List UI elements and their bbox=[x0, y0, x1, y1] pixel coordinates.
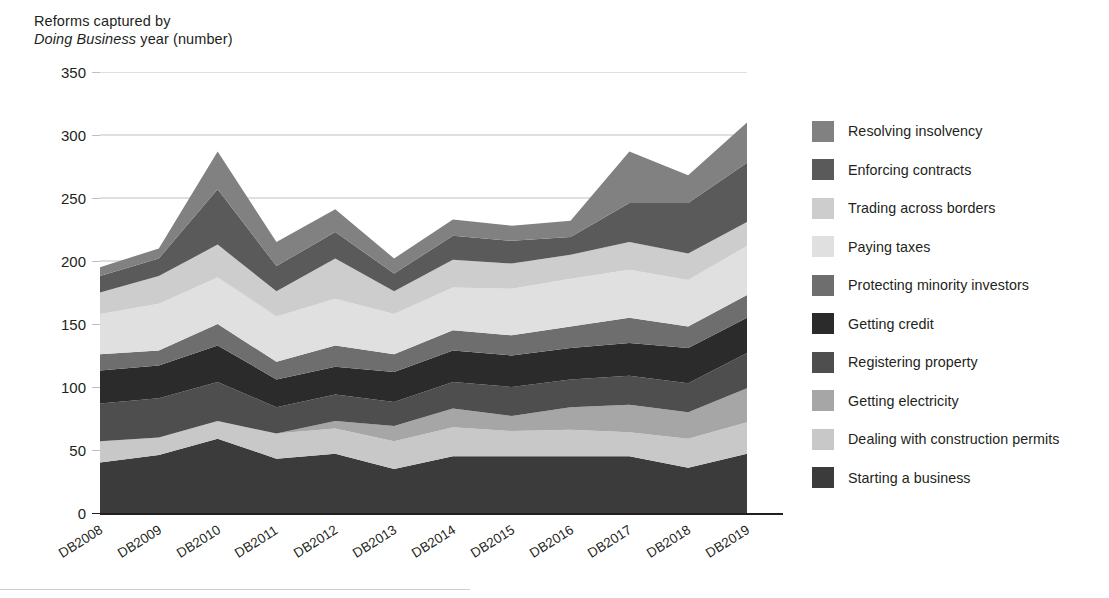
y-axis-title-line2-rest: year (number) bbox=[136, 31, 233, 47]
legend-swatch-icon bbox=[812, 159, 834, 180]
y-tick-mark bbox=[92, 450, 100, 451]
legend-swatch-icon bbox=[812, 352, 834, 373]
legend-item-label: Getting electricity bbox=[848, 393, 959, 409]
x-tick-label-db2015: DB2015 bbox=[468, 522, 517, 561]
legend-item[interactable]: Enforcing contracts bbox=[812, 151, 1107, 190]
x-tick-label-db2014: DB2014 bbox=[409, 522, 458, 561]
legend-swatch-icon bbox=[812, 275, 834, 296]
legend-item-label: Registering property bbox=[848, 354, 978, 370]
y-tick-mark bbox=[92, 72, 100, 73]
y-tick-mark bbox=[92, 513, 100, 514]
x-tick-label-db2010: DB2010 bbox=[174, 522, 223, 561]
legend-item-label: Enforcing contracts bbox=[848, 162, 971, 178]
y-tick-mark bbox=[92, 261, 100, 262]
legend-item[interactable]: Protecting minority investors bbox=[812, 266, 1107, 305]
legend-item[interactable]: Registering property bbox=[812, 343, 1107, 382]
legend-swatch-icon bbox=[812, 467, 834, 488]
legend-swatch-icon bbox=[812, 390, 834, 411]
legend-item-label: Trading across borders bbox=[848, 200, 996, 216]
area-series-group bbox=[100, 122, 747, 513]
legend-item[interactable]: Paying taxes bbox=[812, 228, 1107, 267]
x-tick-label-db2019: DB2019 bbox=[703, 522, 752, 561]
legend-swatch-icon bbox=[812, 429, 834, 450]
legend-item[interactable]: Starting a business bbox=[812, 459, 1107, 498]
x-axis-line bbox=[100, 513, 783, 515]
legend-item[interactable]: Dealing with construction permits bbox=[812, 420, 1107, 459]
footer-rule bbox=[0, 589, 470, 590]
legend-item[interactable]: Getting credit bbox=[812, 305, 1107, 344]
legend-item-label: Paying taxes bbox=[848, 239, 930, 255]
chart-figure: Reforms captured by Doing Business year … bbox=[0, 0, 1109, 598]
y-tick-label: 250 bbox=[30, 191, 86, 206]
x-tick-label-db2016: DB2016 bbox=[527, 522, 576, 561]
y-tick-mark bbox=[92, 324, 100, 325]
stacked-area-plot bbox=[100, 72, 747, 513]
y-tick-label: 150 bbox=[30, 317, 86, 332]
y-axis-title-line1: Reforms captured by bbox=[34, 13, 171, 29]
legend-item[interactable]: Resolving insolvency bbox=[812, 112, 1107, 151]
legend-swatch-icon bbox=[812, 198, 834, 219]
y-tick-label: 300 bbox=[30, 128, 86, 143]
legend-item-label: Dealing with construction permits bbox=[848, 431, 1059, 447]
y-tick-mark bbox=[92, 135, 100, 136]
legend-swatch-icon bbox=[812, 121, 834, 142]
legend-item-label: Starting a business bbox=[848, 470, 971, 486]
y-tick-label: 50 bbox=[30, 443, 86, 458]
legend-swatch-icon bbox=[812, 313, 834, 334]
x-tick-label-db2012: DB2012 bbox=[291, 522, 340, 561]
y-tick-label: 100 bbox=[30, 380, 86, 395]
y-tick-label: 200 bbox=[30, 254, 86, 269]
legend-swatch-icon bbox=[812, 236, 834, 257]
legend: Resolving insolvencyEnforcing contractsT… bbox=[812, 112, 1107, 497]
y-axis-title-publication: Doing Business bbox=[34, 31, 136, 47]
legend-item[interactable]: Trading across borders bbox=[812, 189, 1107, 228]
x-tick-label-db2011: DB2011 bbox=[232, 523, 280, 561]
legend-item-label: Protecting minority investors bbox=[848, 277, 1029, 293]
plot-area bbox=[100, 72, 747, 513]
y-tick-mark bbox=[92, 387, 100, 388]
legend-item-label: Getting credit bbox=[848, 316, 934, 332]
legend-item-label: Resolving insolvency bbox=[848, 123, 983, 139]
x-tick-label-db2018: DB2018 bbox=[644, 522, 693, 561]
y-tick-label: 350 bbox=[30, 65, 86, 80]
x-tick-label-db2017: DB2017 bbox=[585, 522, 634, 561]
x-tick-label-db2009: DB2009 bbox=[115, 522, 164, 561]
x-tick-label-db2013: DB2013 bbox=[350, 522, 399, 561]
y-tick-mark bbox=[92, 198, 100, 199]
y-axis-title: Reforms captured by Doing Business year … bbox=[34, 12, 394, 48]
x-tick-label-db2008: DB2008 bbox=[56, 522, 105, 561]
y-tick-label: 0 bbox=[30, 506, 86, 521]
legend-item[interactable]: Getting electricity bbox=[812, 382, 1107, 421]
